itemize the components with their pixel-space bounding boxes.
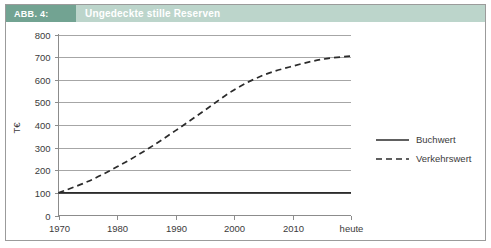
line-chart: 0100200300400500600700800 19701980199020…	[6, 22, 485, 240]
legend-label-verkehrswert: Verkehrswert	[416, 153, 472, 164]
figure-container: ABB. 4: Ungedeckte stille Reserven 01002…	[0, 0, 491, 248]
data-series-group	[59, 56, 352, 193]
caption-number: ABB. 4:	[6, 5, 76, 22]
chart-legend: BuchwertVerkehrswert	[376, 134, 472, 164]
y-tick-label: 300	[35, 143, 51, 154]
y-tick-label-group: 0100200300400500600700800	[35, 30, 51, 222]
x-tick-label: 2000	[224, 223, 245, 234]
y-tick-label: 500	[35, 97, 51, 108]
y-tick-label: 100	[35, 188, 51, 199]
x-tick-label-group: 19701980199020002010heute	[49, 223, 363, 234]
y-tick-label: 800	[35, 30, 51, 41]
y-axis-title: T€	[11, 122, 22, 134]
x-tick-label: 1990	[166, 223, 187, 234]
chart-plot-area: 0100200300400500600700800 19701980199020…	[6, 22, 485, 240]
x-tick-mark-group	[60, 216, 352, 220]
y-tick-label: 700	[35, 52, 51, 63]
gridlines-group	[59, 36, 352, 194]
y-tick-label: 0	[45, 211, 50, 222]
figure-caption-bar: ABB. 4: Ungedeckte stille Reserven	[6, 5, 485, 22]
x-tick-label: 1970	[49, 223, 70, 234]
y-tick-mark-group	[55, 36, 59, 217]
y-tick-label: 600	[35, 75, 51, 86]
y-tick-label: 400	[35, 120, 51, 131]
y-tick-label: 200	[35, 165, 51, 176]
series-line-verkehrswert	[59, 56, 352, 193]
caption-title: Ungedeckte stille Reserven	[76, 5, 485, 22]
x-tick-label: 1980	[107, 223, 128, 234]
x-tick-label: heute	[340, 223, 364, 234]
legend-label-buchwert: Buchwert	[416, 134, 456, 145]
x-tick-label: 2010	[283, 223, 304, 234]
